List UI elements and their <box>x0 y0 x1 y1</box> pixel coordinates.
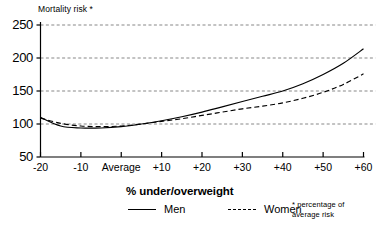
y-tick-label: 200 <box>3 50 33 65</box>
x-axis-title: % under/overweight <box>126 185 233 197</box>
mortality-risk-chart: Mortality risk * 25020015010050 -20-10Av… <box>0 0 385 228</box>
series-line-women <box>41 74 364 127</box>
y-tick-label: 100 <box>3 116 33 131</box>
y-tick-label: 250 <box>3 17 33 32</box>
series-line-men <box>41 49 364 128</box>
legend-label-text: Men <box>164 203 185 215</box>
legend-item-women: Women <box>228 203 302 215</box>
footnote-text: * percentage of average risk <box>292 200 382 219</box>
legend-item-men: Men <box>128 203 185 215</box>
x-tick-label: +60 <box>334 161 385 173</box>
y-tick-label: 150 <box>3 83 33 98</box>
legend-swatch-dashed <box>228 209 256 210</box>
legend-swatch-solid <box>128 209 156 210</box>
